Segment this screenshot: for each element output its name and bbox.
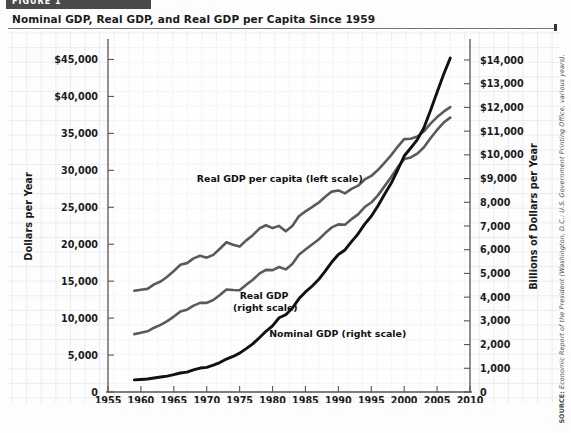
- y-tick-label-right: 1,000: [480, 363, 511, 374]
- x-tick-label: 1975: [226, 395, 253, 403]
- y-tick-label-right: 2,000: [480, 339, 511, 350]
- gdp-line-chart: 05,00010,00015,00020,00025,00030,00035,0…: [0, 31, 571, 403]
- series-annotation: (right scale): [233, 302, 298, 313]
- y-tick-label-right: $9,000: [480, 173, 517, 184]
- series-annotation: Nominal GDP (right scale): [269, 328, 406, 339]
- y-tick-label-right: $12,000: [480, 102, 524, 113]
- y-tick-label-right: $14,000: [480, 55, 524, 66]
- x-tick-label: 1980: [259, 395, 286, 403]
- plot-panel: [108, 41, 470, 392]
- y-tick-label-right: 7,000: [480, 221, 511, 232]
- x-tick-label: 1965: [160, 395, 187, 403]
- y-tick-label-left: 15,000: [61, 276, 98, 287]
- x-tick-label: 1990: [325, 395, 352, 403]
- chart-area: 05,00010,00015,00020,00025,00030,00035,0…: [0, 31, 571, 403]
- x-tick-label: 1960: [128, 395, 155, 403]
- title-divider: [8, 28, 556, 29]
- source-note: SOURCE: Economic Report of the President…: [555, 44, 569, 424]
- y-tick-label-left: 5,000: [68, 350, 99, 361]
- y-tick-label-left: 10,000: [61, 313, 98, 324]
- y-axis-title-left: Dollars per Year: [23, 172, 34, 261]
- y-tick-label-right: $13,000: [480, 78, 524, 89]
- y-tick-label-right: 6,000: [480, 244, 511, 255]
- x-tick-label: 1985: [292, 395, 319, 403]
- series-annotation: Real GDP per capita (left scale): [197, 173, 363, 184]
- figure-caption-banner-label: FIGURE 1: [6, 0, 151, 6]
- y-tick-label-right: $10,000: [480, 149, 524, 160]
- y-tick-label-left: $45,000: [54, 54, 98, 65]
- source-note-prefix: SOURCE:: [558, 392, 566, 424]
- y-tick-label-left: $40,000: [54, 91, 98, 102]
- figure-caption-banner: FIGURE 1: [6, 0, 151, 9]
- figure-root: FIGURE 1 Nominal GDP, Real GDP, and Real…: [0, 0, 571, 433]
- y-tick-label-left: 30,000: [61, 165, 98, 176]
- x-tick-label: 2005: [424, 395, 451, 403]
- y-tick-label-right: 5,000: [480, 268, 511, 279]
- y-tick-label-right: 4,000: [480, 292, 511, 303]
- series-annotation: Real GDP: [240, 290, 289, 301]
- x-tick-label: 1955: [95, 395, 122, 403]
- x-tick-label: 2000: [391, 395, 418, 403]
- source-note-text: Economic Report of the President (Washin…: [558, 54, 566, 391]
- y-tick-label-right: $11,000: [480, 126, 524, 137]
- y-tick-label-left: 20,000: [61, 239, 98, 250]
- x-tick-label: 1970: [193, 395, 220, 403]
- y-tick-label-right: 8,000: [480, 197, 511, 208]
- x-tick-label: 2010: [457, 395, 484, 403]
- y-tick-label-left: 35,000: [61, 128, 98, 139]
- y-tick-label-right: 3,000: [480, 315, 511, 326]
- page-title: Nominal GDP, Real GDP, and Real GDP per …: [12, 13, 375, 25]
- y-tick-label-left: 25,000: [61, 202, 98, 213]
- y-axis-title-right: Billions of Dollars per Year: [528, 143, 539, 290]
- x-tick-label: 1995: [358, 395, 385, 403]
